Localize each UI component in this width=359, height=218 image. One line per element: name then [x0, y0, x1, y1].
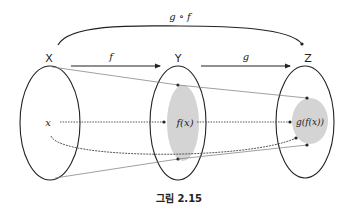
element-x-label: x: [45, 117, 51, 128]
set-label-x: X: [45, 52, 53, 65]
set-label-z: Z: [304, 52, 312, 65]
composite-map-label: g ∘ f: [169, 11, 193, 22]
element-fx-label: f(x): [175, 117, 193, 128]
fx-top-to-gfx-top-line: [178, 85, 307, 98]
fx-bottom-to-gfx-bottom-line: [178, 145, 307, 159]
function-composition-diagram: g ∘ f X Y Z f g x f(x) g(f(x)) 그림 2.15: [0, 0, 359, 218]
map-g-label: g: [243, 51, 249, 62]
set-label-y: Y: [174, 52, 182, 65]
composite-map-arc: [58, 26, 302, 45]
figure-caption: 그림 2.15: [156, 193, 202, 204]
x-bottom-to-fx-bottom-line: [55, 159, 178, 178]
element-gfx-label: g(f(x)): [296, 117, 325, 127]
map-f-label: f: [108, 51, 115, 62]
